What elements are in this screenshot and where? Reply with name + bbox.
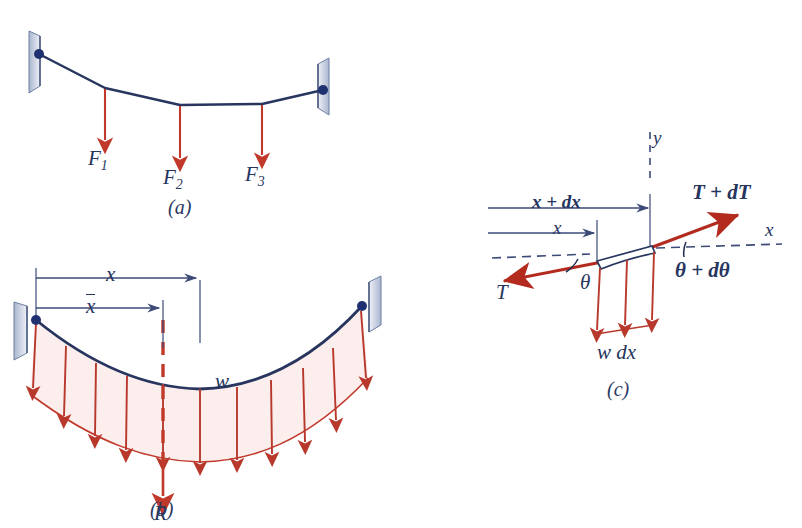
angle-arc-theta-plus-dtheta xyxy=(684,242,686,257)
figure-b: x x w R xyxy=(0,228,400,528)
axis-label-x: x xyxy=(765,220,773,239)
support-left-wall xyxy=(14,302,27,360)
tension-label-t: T xyxy=(496,282,508,303)
tension-label-t-plus-dt: T + dT xyxy=(692,182,751,203)
element-load-label-wdx: w dx xyxy=(597,342,636,363)
axis-label-y: y xyxy=(653,128,661,147)
figure-c-caption: (c) xyxy=(607,378,629,401)
pin-right xyxy=(357,301,367,311)
pin-left xyxy=(31,315,41,325)
load-label-f3: F3 xyxy=(245,164,265,189)
element-load-envelope xyxy=(596,325,653,334)
dim-label-xbar: x xyxy=(86,294,95,317)
figure-b-canvas xyxy=(0,228,400,528)
distributed-load-label-w: w xyxy=(215,371,229,392)
figure-c-canvas xyxy=(470,120,802,420)
angle-label-theta-plus-dtheta: θ + dθ xyxy=(675,260,730,281)
figure-b-caption: (b) xyxy=(150,498,173,521)
distributed-load-region xyxy=(30,306,368,462)
pin-left xyxy=(34,49,44,59)
tension-arrow-t-plus-dt xyxy=(650,215,738,248)
load-label-f1: F1 xyxy=(88,148,108,173)
figure-a: F1 F2 F3 (a) xyxy=(0,0,400,230)
support-left-wall xyxy=(29,31,40,93)
axis-x-dashed-left xyxy=(492,254,590,258)
angle-label-theta: θ xyxy=(580,272,590,293)
axis-x-dashed-right xyxy=(656,244,782,248)
cable-segments xyxy=(39,54,323,105)
dim-label-x: x xyxy=(553,218,561,237)
pin-right xyxy=(318,85,328,95)
figure-c: y x x + dx x T T + dT θ θ + dθ w dx (c) xyxy=(470,120,802,420)
dim-label-x: x xyxy=(106,264,115,285)
dim-label-x-plus-dx: x + dx xyxy=(532,192,581,211)
figure-a-caption: (a) xyxy=(168,196,191,219)
figure-a-canvas xyxy=(0,0,400,230)
load-label-f2: F2 xyxy=(163,167,183,192)
support-right-wall xyxy=(369,276,381,332)
